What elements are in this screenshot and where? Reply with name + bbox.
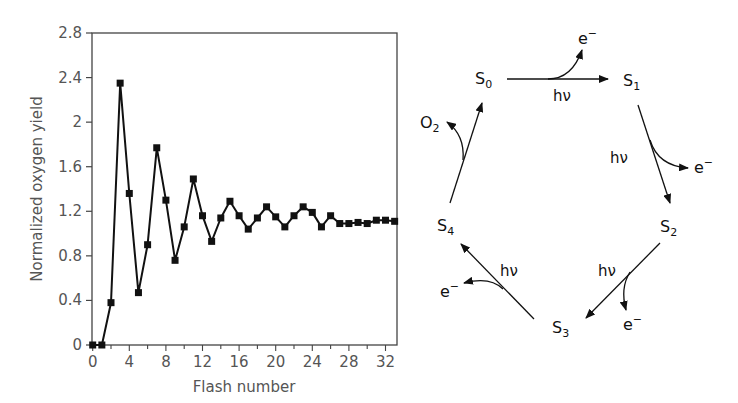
y-tick-label: 2.4 [58, 69, 82, 87]
x-tick-label: 24 [303, 353, 322, 371]
hv-label-s0-s1: hν [553, 87, 571, 105]
data-point-marker [291, 212, 298, 219]
data-series [89, 80, 398, 349]
y-tick-label: 0 [72, 336, 82, 354]
state-s2: S2 [660, 217, 677, 239]
electron-label-s1-s2: e− [694, 156, 713, 177]
oxygen-branch-s4-s0 [447, 122, 463, 160]
data-point-marker [391, 218, 398, 225]
data-point-marker [98, 342, 105, 349]
electron-label-s0-s1: e− [578, 27, 597, 48]
arrow-s2-s3 [586, 243, 660, 318]
hv-label-s3-s4: hν [500, 262, 518, 280]
data-point-marker [309, 209, 316, 216]
x-tick-label: 20 [266, 353, 285, 371]
data-point-marker [300, 203, 307, 210]
electron-branch-s0-s1 [548, 50, 582, 79]
x-axis: 048121620242832 [88, 345, 395, 371]
x-tick-label: 28 [339, 353, 358, 371]
x-tick-label: 16 [230, 353, 249, 371]
data-point-marker [190, 175, 197, 182]
state-s4: S4 [437, 216, 454, 238]
electron-branch-s1-s2 [650, 140, 688, 168]
data-point-marker [327, 212, 334, 219]
data-point-marker [162, 197, 169, 204]
oxygen-label: O2 [420, 113, 440, 135]
data-point-marker [153, 144, 160, 151]
arrow-s4-s0 [450, 103, 482, 203]
y-tick-label: 2.8 [58, 24, 82, 42]
data-point-marker [254, 214, 261, 221]
data-point-marker [364, 220, 371, 227]
x-tick-label: 8 [161, 353, 171, 371]
y-tick-label: 2 [72, 113, 82, 131]
x-tick-label: 32 [376, 353, 395, 371]
state-s1: S1 [623, 71, 640, 93]
data-point-marker [181, 223, 188, 230]
y-tick-label: 0.8 [58, 247, 82, 265]
data-point-marker [382, 217, 389, 224]
state-s3: S3 [552, 318, 569, 340]
data-point-marker [117, 80, 124, 87]
x-axis-title: Flash number [193, 378, 296, 396]
y-tick-label: 0.4 [58, 291, 82, 309]
series-line [93, 83, 395, 345]
data-point-marker [272, 213, 279, 220]
data-point-marker [263, 203, 270, 210]
data-point-marker [144, 241, 151, 248]
data-point-marker [108, 299, 115, 306]
data-point-marker [89, 342, 96, 349]
data-point-marker [135, 289, 142, 296]
x-tick-label: 12 [193, 353, 212, 371]
data-point-marker [208, 238, 215, 245]
y-tick-label: 1.6 [58, 158, 82, 176]
y-axis: 00.40.81.21.622.42.8 [58, 24, 92, 354]
data-point-marker [172, 257, 179, 264]
data-point-marker [318, 223, 325, 230]
y-tick-label: 1.2 [58, 202, 82, 220]
data-point-marker [281, 223, 288, 230]
data-point-marker [199, 212, 206, 219]
hv-label-s2-s3: hν [598, 262, 616, 280]
arrow-s1-s2 [638, 105, 670, 203]
data-point-marker [217, 214, 224, 221]
plot-frame [92, 33, 397, 345]
data-point-marker [245, 226, 252, 233]
data-point-marker [355, 219, 362, 226]
plot-border [92, 33, 397, 345]
electron-branch-s2-s3 [624, 272, 630, 310]
state-s0: S0 [475, 69, 492, 91]
data-point-marker [373, 217, 380, 224]
data-point-marker [236, 212, 243, 219]
oxygen-yield-chart: 00.40.81.21.622.42.8 048121620242832 Fla… [0, 0, 738, 403]
hv-label-s1-s2: hν [610, 149, 628, 167]
y-axis-title: Normalized oxygen yield [28, 96, 46, 281]
x-tick-label: 4 [125, 353, 135, 371]
x-tick-label: 0 [88, 353, 98, 371]
data-point-marker [226, 198, 233, 205]
electron-label-s3-s4: e− [440, 280, 459, 301]
data-point-marker [345, 220, 352, 227]
data-point-marker [336, 220, 343, 227]
electron-label-s2-s3: e− [623, 313, 642, 334]
data-point-marker [126, 190, 133, 197]
